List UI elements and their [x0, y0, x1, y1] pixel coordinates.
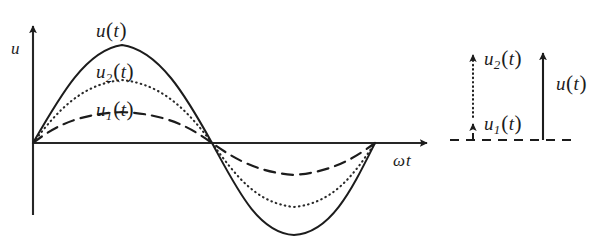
paren-close-icon: )	[119, 18, 127, 42]
curve-label-u: u(t)	[96, 20, 127, 41]
legend-label-u: u(t)	[556, 73, 587, 94]
sinusoid-superposition-figure: u ωt u(t) u2(t) u1(t) u2(t) u1(t) u(t)	[0, 0, 605, 249]
legend-label-u1-sub: 1	[494, 122, 501, 137]
curve-u-solid	[33, 45, 375, 235]
paren-close-icon: )	[579, 71, 587, 95]
paren-open-icon: (	[566, 71, 574, 95]
paren-open-icon: (	[106, 18, 114, 42]
paren-close-icon: )	[514, 46, 522, 70]
x-axis-label-t: t	[406, 151, 411, 170]
curve-label-u1-sub: 1	[106, 108, 113, 123]
curve-label-u2-base: u	[96, 61, 106, 82]
curve-label-u2-sub: 2	[106, 70, 113, 85]
curve-label-u1-base: u	[96, 99, 106, 120]
paren-open-icon: (	[501, 111, 509, 135]
legend-label-u2: u2(t)	[484, 48, 522, 72]
x-axis-label: ωt	[393, 152, 411, 169]
legend-label-u1: u1(t)	[484, 113, 522, 137]
legend-label-u2-base: u	[484, 48, 494, 69]
paren-close-icon: )	[126, 59, 134, 83]
legend-label-u-base: u	[556, 73, 566, 94]
legend-label-u1-base: u	[484, 113, 494, 134]
paren-open-icon: (	[113, 59, 121, 83]
curve-label-u2: u2(t)	[96, 61, 134, 85]
y-axis-label: u	[11, 40, 20, 57]
waveform-group	[33, 45, 375, 235]
x-axis-label-omega: ω	[393, 151, 406, 170]
paren-close-icon: )	[126, 97, 134, 121]
curve-label-u-base: u	[96, 20, 106, 41]
paren-close-icon: )	[514, 111, 522, 135]
paren-open-icon: (	[113, 97, 121, 121]
legend-label-u2-sub: 2	[494, 57, 501, 72]
axes-group	[33, 26, 427, 215]
curve-label-u1: u1(t)	[96, 99, 134, 123]
paren-open-icon: (	[501, 46, 509, 70]
